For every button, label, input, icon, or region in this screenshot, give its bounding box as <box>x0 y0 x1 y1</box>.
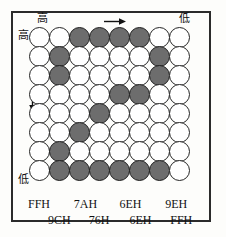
dot-row <box>29 27 189 47</box>
dot-on <box>89 27 110 48</box>
dot-off <box>109 103 130 124</box>
dot-on <box>49 141 70 162</box>
dot-on <box>69 27 90 48</box>
dot-off <box>29 27 50 48</box>
label-top-right-low: 低 <box>179 13 190 24</box>
dot-off <box>149 103 170 124</box>
label-top-left-high: 高 <box>37 13 48 24</box>
dot-off <box>169 160 190 181</box>
dot-off <box>89 46 110 67</box>
dot-row <box>29 46 189 66</box>
dot-off <box>69 141 90 162</box>
dot-off <box>149 141 170 162</box>
hex-value: 6EH <box>120 197 166 212</box>
dot-off <box>149 27 170 48</box>
dot-on <box>89 103 110 124</box>
dot-off <box>29 103 50 124</box>
hex-value: 76H <box>89 213 130 228</box>
dot-off <box>89 141 110 162</box>
dot-on <box>149 65 170 86</box>
dot-off <box>49 122 70 143</box>
dot-on <box>69 122 90 143</box>
dot-off <box>129 103 150 124</box>
hex-value: 6EH <box>130 213 171 228</box>
dot-off <box>129 65 150 86</box>
dot-on <box>49 65 70 86</box>
figure-container: 高 低 高 低 FFH7AH6EH9EH 9CH76H6EHFFH <box>0 0 226 237</box>
dot-on <box>109 160 130 181</box>
dot-off <box>169 141 190 162</box>
dot-off <box>169 122 190 143</box>
dot-on <box>129 27 150 48</box>
dot-row <box>29 141 189 161</box>
dot-on <box>129 160 150 181</box>
dot-on <box>149 160 170 181</box>
dot-on <box>49 46 70 67</box>
dot-on <box>109 84 130 105</box>
dot-off <box>109 141 130 162</box>
dot-off <box>69 65 90 86</box>
dot-off <box>89 122 110 143</box>
dot-on <box>149 46 170 67</box>
dot-off <box>109 46 130 67</box>
dot-off <box>89 65 110 86</box>
dot-on <box>129 84 150 105</box>
hex-value: FFH <box>170 213 211 228</box>
dot-off <box>29 46 50 67</box>
dot-off <box>169 65 190 86</box>
hex-row-lower: 9CH76H6EHFFH <box>13 212 211 228</box>
dot-on <box>89 160 110 181</box>
dot-off <box>129 122 150 143</box>
dot-off <box>29 141 50 162</box>
dot-row <box>29 65 189 85</box>
dot-off <box>89 84 110 105</box>
dot-off <box>49 27 70 48</box>
dot-off <box>69 84 90 105</box>
dot-on <box>49 160 70 181</box>
hex-value-block: FFH7AH6EH9EH 9CH76H6EHFFH <box>13 196 211 228</box>
hex-value: 9CH <box>48 213 89 228</box>
hex-value: FFH <box>28 197 74 212</box>
hex-value: 7AH <box>74 197 120 212</box>
dot-off <box>29 122 50 143</box>
dot-off <box>129 141 150 162</box>
hex-value: 9EH <box>165 197 211 212</box>
dot-off <box>149 122 170 143</box>
dot-off <box>109 122 130 143</box>
dot-off <box>169 103 190 124</box>
right-arrow-icon <box>104 17 126 26</box>
dot-off <box>129 46 150 67</box>
dot-matrix-grid <box>29 27 189 179</box>
dot-row <box>29 103 189 123</box>
dot-row <box>29 160 189 180</box>
dot-off <box>29 160 50 181</box>
dot-on <box>69 160 90 181</box>
dot-off <box>109 65 130 86</box>
hex-row-upper: FFH7AH6EH9EH <box>13 196 211 212</box>
dot-off <box>49 84 70 105</box>
label-left-low: 低 <box>18 174 29 185</box>
dot-on <box>109 27 130 48</box>
dot-off <box>169 27 190 48</box>
label-left-high: 高 <box>18 30 29 41</box>
dot-off <box>69 103 90 124</box>
dot-off <box>169 46 190 67</box>
dot-off <box>49 103 70 124</box>
dot-off <box>69 46 90 67</box>
dot-row <box>29 84 189 104</box>
dot-off <box>169 84 190 105</box>
dot-off <box>29 65 50 86</box>
dot-off <box>149 84 170 105</box>
dot-off <box>29 84 50 105</box>
dot-row <box>29 122 189 142</box>
